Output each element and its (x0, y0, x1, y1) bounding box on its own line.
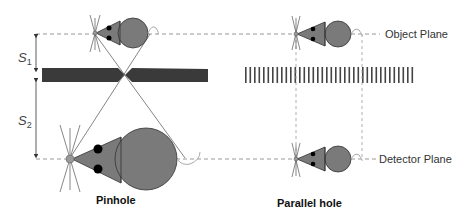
collimator-diagram: S1 S2 Pinhole (0, 0, 463, 217)
parallel-hole-collimator (245, 67, 413, 83)
image-mouse-parallel (292, 143, 362, 177)
detector-plane-label: Detector Plane (379, 153, 452, 165)
s2-label: S2 (18, 113, 32, 130)
pinhole-title: Pinhole (96, 194, 136, 206)
s1-label: S1 (18, 50, 32, 67)
object-mouse-pinhole (90, 15, 158, 52)
object-mouse-parallel (292, 16, 362, 50)
parallel-hole-title: Parallel hole (277, 197, 342, 209)
object-plane-label: Object Plane (385, 28, 448, 40)
